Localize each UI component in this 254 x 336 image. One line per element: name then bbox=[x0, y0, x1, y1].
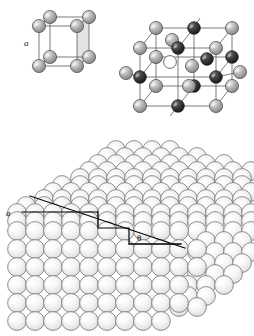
atom-light bbox=[82, 10, 95, 23]
atom-dark bbox=[172, 42, 185, 55]
atom-light bbox=[82, 50, 95, 63]
atom-light bbox=[32, 19, 45, 32]
atom-dark bbox=[201, 53, 214, 66]
atom-light bbox=[209, 99, 222, 112]
front-face-row bbox=[8, 258, 207, 277]
atom-light bbox=[225, 21, 238, 34]
atom-light bbox=[185, 59, 198, 72]
atom-light bbox=[133, 41, 146, 54]
front-face-row bbox=[8, 312, 171, 331]
atom-dark bbox=[172, 100, 185, 113]
lattice-constant-label: a bbox=[24, 38, 29, 48]
atom-light bbox=[225, 79, 238, 92]
miscut-angle-label: θ bbox=[137, 233, 141, 243]
figure-canvas: a bbox=[0, 0, 254, 336]
atom-dark bbox=[226, 51, 239, 64]
atom-light bbox=[149, 79, 162, 92]
atom-light bbox=[43, 10, 56, 23]
atom-light bbox=[149, 50, 162, 63]
step-height-label: a bbox=[6, 208, 11, 218]
crystal-structure-figure: a bbox=[0, 0, 254, 336]
front-face-row bbox=[8, 240, 207, 259]
atom-dark bbox=[134, 71, 147, 84]
atom-dark bbox=[210, 71, 223, 84]
atom-light bbox=[119, 66, 132, 79]
atom-light bbox=[70, 19, 83, 32]
vacancy-circle bbox=[164, 56, 177, 69]
atom-light bbox=[233, 65, 246, 78]
atom-light bbox=[209, 41, 222, 54]
atom-light bbox=[43, 50, 56, 63]
atom-dark bbox=[188, 22, 201, 35]
atom-light bbox=[70, 59, 83, 72]
atom-light bbox=[32, 59, 45, 72]
atom-light bbox=[133, 99, 146, 112]
atom-light bbox=[149, 21, 162, 34]
atom-light bbox=[182, 79, 195, 92]
